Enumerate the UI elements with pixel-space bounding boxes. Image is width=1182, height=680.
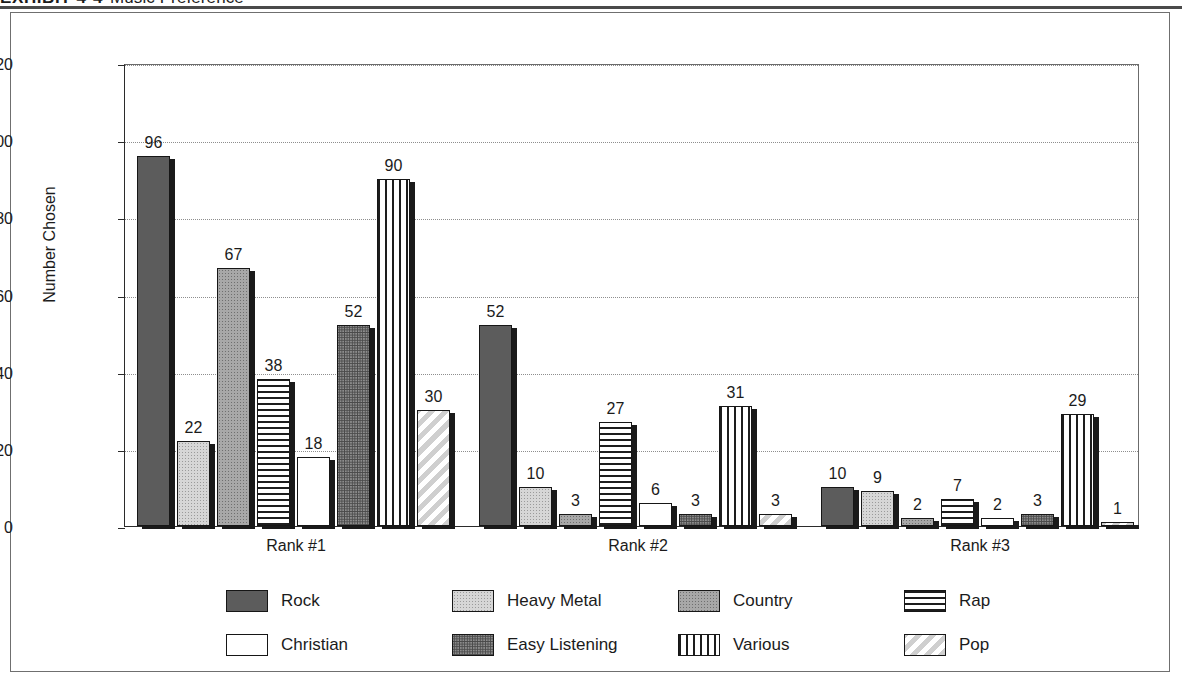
bar-body bbox=[377, 179, 410, 526]
x-axis-group-label-rank-1: Rank #1 bbox=[266, 537, 326, 555]
bar-rock-rank-2[interactable]: 52 bbox=[479, 325, 512, 526]
bar-value-label: 10 bbox=[527, 465, 545, 483]
bar-heavy-metal-rank-1[interactable]: 22 bbox=[177, 441, 210, 526]
gridline bbox=[125, 219, 1138, 220]
bar-various-rank-3[interactable]: 29 bbox=[1061, 414, 1094, 526]
bar-value-label: 90 bbox=[385, 157, 403, 175]
bar-rap-rank-1[interactable]: 38 bbox=[257, 379, 290, 526]
chart-legend: RockHeavy MetalCountryRapChristianEasy L… bbox=[226, 579, 1131, 667]
bar-body bbox=[981, 518, 1014, 526]
legend-label: Christian bbox=[281, 635, 348, 655]
y-tick-mark bbox=[118, 297, 125, 298]
bar-body bbox=[719, 406, 752, 526]
y-tick-label: 100 bbox=[0, 133, 13, 151]
bar-value-label: 67 bbox=[225, 246, 243, 264]
legend-label: Rap bbox=[959, 591, 990, 611]
y-tick-label: 60 bbox=[0, 288, 13, 306]
bar-value-label: 10 bbox=[829, 465, 847, 483]
y-tick-mark bbox=[118, 219, 125, 220]
y-tick-mark bbox=[118, 528, 125, 529]
legend-swatch-easy-listening bbox=[452, 634, 494, 656]
bar-body bbox=[137, 156, 170, 526]
legend-row: RockHeavy MetalCountryRap bbox=[226, 579, 1131, 623]
legend-item-pop[interactable]: Pop bbox=[904, 634, 1130, 656]
legend-label: Various bbox=[733, 635, 789, 655]
legend-label: Country bbox=[733, 591, 793, 611]
bar-body bbox=[337, 325, 370, 526]
bar-value-label: 2 bbox=[913, 496, 922, 514]
legend-swatch-christian bbox=[226, 634, 268, 656]
caption-rule bbox=[0, 6, 1182, 9]
x-axis-group-label-rank-2: Rank #2 bbox=[608, 537, 668, 555]
bar-pop-rank-2[interactable]: 3 bbox=[759, 514, 792, 526]
bar-rock-rank-1[interactable]: 96 bbox=[137, 156, 170, 526]
bar-value-label: 30 bbox=[425, 388, 443, 406]
bar-pop-rank-1[interactable]: 30 bbox=[417, 410, 450, 526]
legend-item-rock[interactable]: Rock bbox=[226, 590, 452, 612]
bar-value-label: 22 bbox=[185, 419, 203, 437]
bar-value-label: 29 bbox=[1069, 392, 1087, 410]
y-axis-title: Number Chosen bbox=[39, 13, 61, 476]
exhibit-figure: EXHIBIT 4-4Music Preference Number Chose… bbox=[0, 0, 1182, 680]
bar-various-rank-1[interactable]: 90 bbox=[377, 179, 410, 526]
bar-body bbox=[257, 379, 290, 526]
bar-country-rank-3[interactable]: 2 bbox=[901, 518, 934, 526]
bar-body bbox=[217, 268, 250, 527]
bar-body bbox=[679, 514, 712, 526]
bar-value-label: 3 bbox=[1033, 492, 1042, 510]
bar-body bbox=[417, 410, 450, 526]
bar-body bbox=[177, 441, 210, 526]
bar-body bbox=[759, 514, 792, 526]
legend-item-various[interactable]: Various bbox=[678, 634, 904, 656]
legend-item-rap[interactable]: Rap bbox=[904, 590, 1130, 612]
bar-various-rank-2[interactable]: 31 bbox=[719, 406, 752, 526]
bar-rock-rank-3[interactable]: 10 bbox=[821, 487, 854, 526]
bar-value-label: 52 bbox=[487, 303, 505, 321]
bar-easy-listening-rank-2[interactable]: 3 bbox=[679, 514, 712, 526]
y-tick-label: 40 bbox=[0, 365, 13, 383]
y-tick-label: 20 bbox=[0, 442, 13, 460]
bar-body bbox=[599, 422, 632, 526]
legend-item-easy-listening[interactable]: Easy Listening bbox=[452, 634, 678, 656]
gridline bbox=[125, 65, 1138, 66]
bar-country-rank-2[interactable]: 3 bbox=[559, 514, 592, 526]
legend-swatch-rap bbox=[904, 590, 946, 612]
bar-value-label: 96 bbox=[145, 134, 163, 152]
legend-label: Heavy Metal bbox=[507, 591, 601, 611]
bar-body bbox=[941, 499, 974, 526]
legend-item-christian[interactable]: Christian bbox=[226, 634, 452, 656]
bar-value-label: 2 bbox=[993, 496, 1002, 514]
bar-value-label: 9 bbox=[873, 469, 882, 487]
plot-area: 0204060801001209622673818529030521032763… bbox=[124, 64, 1139, 527]
bar-heavy-metal-rank-3[interactable]: 9 bbox=[861, 491, 894, 526]
legend-row: ChristianEasy ListeningVariousPop bbox=[226, 623, 1131, 667]
y-tick-mark bbox=[118, 451, 125, 452]
bar-country-rank-1[interactable]: 67 bbox=[217, 268, 250, 527]
bar-pop-rank-3[interactable]: 1 bbox=[1101, 522, 1134, 526]
bar-rap-rank-2[interactable]: 27 bbox=[599, 422, 632, 526]
y-tick-mark bbox=[118, 142, 125, 143]
bar-value-label: 3 bbox=[691, 492, 700, 510]
bar-christian-rank-3[interactable]: 2 bbox=[981, 518, 1014, 526]
bar-heavy-metal-rank-2[interactable]: 10 bbox=[519, 487, 552, 526]
legend-item-heavy-metal[interactable]: Heavy Metal bbox=[452, 590, 678, 612]
legend-item-country[interactable]: Country bbox=[678, 590, 904, 612]
bar-body bbox=[297, 457, 330, 526]
bar-easy-listening-rank-3[interactable]: 3 bbox=[1021, 514, 1054, 526]
bar-value-label: 3 bbox=[571, 492, 580, 510]
bar-christian-rank-1[interactable]: 18 bbox=[297, 457, 330, 526]
bar-value-label: 18 bbox=[305, 435, 323, 453]
legend-swatch-various bbox=[678, 634, 720, 656]
y-tick-mark bbox=[118, 65, 125, 66]
legend-label: Easy Listening bbox=[507, 635, 618, 655]
bar-easy-listening-rank-1[interactable]: 52 bbox=[337, 325, 370, 526]
y-tick-mark bbox=[118, 374, 125, 375]
bar-body bbox=[1101, 522, 1134, 526]
legend-swatch-pop bbox=[904, 634, 946, 656]
bar-christian-rank-2[interactable]: 6 bbox=[639, 503, 672, 526]
x-axis-group-label-rank-3: Rank #3 bbox=[950, 537, 1010, 555]
y-tick-label: 0 bbox=[0, 519, 13, 537]
bar-value-label: 6 bbox=[651, 481, 660, 499]
bar-rap-rank-3[interactable]: 7 bbox=[941, 499, 974, 526]
bar-value-label: 3 bbox=[771, 492, 780, 510]
